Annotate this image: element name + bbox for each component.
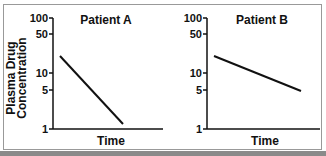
tick-10: 10 (36, 67, 48, 79)
tick-50: 50 (36, 28, 48, 40)
panel-b-line (214, 56, 301, 91)
tick-1: 1 (42, 123, 48, 135)
tick-100: 100 (30, 12, 48, 24)
panel-b: 100 50 10 5 1 Patient B Time (184, 12, 320, 148)
panel-a-title: Patient A (80, 13, 132, 27)
chart-svg: Plasma Drug Concentration 100 50 10 5 1 … (0, 0, 326, 156)
tick-10: 10 (190, 67, 202, 79)
panel-a-xlabel: Time (97, 134, 125, 148)
tick-100: 100 (184, 12, 202, 24)
tick-5: 5 (42, 84, 48, 96)
tick-1: 1 (196, 123, 202, 135)
panel-b-xlabel: Time (251, 134, 279, 148)
panel-a-line (60, 56, 123, 124)
tick-5: 5 (196, 84, 202, 96)
tick-50: 50 (190, 28, 202, 40)
y-axis-label: Plasma Drug Concentration (4, 37, 29, 118)
panel-b-title: Patient B (236, 13, 288, 27)
y-label-line2: Concentration (15, 37, 29, 118)
panel-a: 100 50 10 5 1 Patient A Time (30, 12, 163, 148)
